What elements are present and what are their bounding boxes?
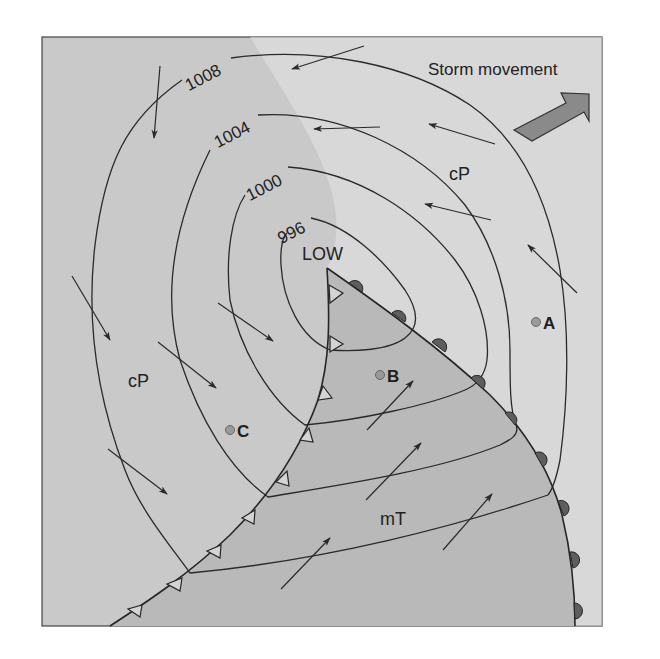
point-a-label: A	[543, 314, 555, 333]
point-b-label: B	[387, 367, 399, 386]
weather-map: 1008 1004 1000 996	[0, 0, 660, 659]
storm-movement-label: Storm movement	[428, 60, 558, 79]
air-mass-label-cp-west: cP	[128, 371, 149, 391]
air-mass-label-cp-north: cP	[449, 164, 470, 184]
point-a-marker	[532, 318, 541, 327]
point-c-marker	[226, 426, 235, 435]
point-c-label: C	[237, 422, 249, 441]
point-b-marker	[376, 371, 385, 380]
low-pressure-label: LOW	[302, 244, 343, 264]
air-mass-label-mt: mT	[380, 509, 406, 529]
